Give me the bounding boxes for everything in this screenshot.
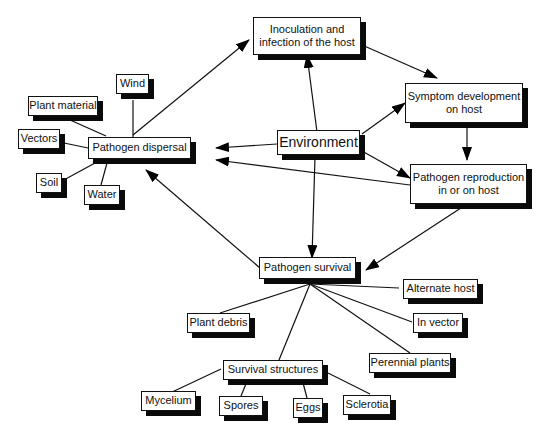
node-pathogen-dispersal: Pathogen dispersal: [88, 137, 191, 159]
edge-reproduction-survival: [366, 204, 467, 270]
node-eggs: Eggs: [293, 398, 323, 418]
edge-water-dispersal: [101, 163, 107, 185]
node-inoculation-line1: Inoculation and: [259, 23, 354, 36]
node-water-label: Water: [88, 188, 117, 201]
node-survival-structures-label: Survival structures: [228, 363, 318, 376]
edge-inoculation-symptom: [362, 45, 437, 78]
node-plant-material-label: Plant material: [29, 99, 96, 112]
edge-soil-dispersal: [62, 163, 95, 181]
node-wind: Wind: [116, 74, 149, 94]
node-vectors-label: Vectors: [21, 132, 58, 145]
edge-environment-dispersal: [216, 144, 277, 148]
node-mycelium: Mycelium: [141, 391, 196, 411]
edge-structures-eggs: [302, 379, 307, 398]
edge-environment-symptom: [362, 103, 405, 134]
edge-environment-inoculation: [307, 55, 317, 132]
node-survival-label: Pathogen survival: [264, 261, 351, 274]
node-spores: Spores: [219, 396, 263, 416]
node-alternate-host: Alternate host: [403, 279, 478, 299]
disease-cycle-diagram: Inoculation andinfection of the host Sym…: [0, 0, 551, 442]
node-environment-label: Environment: [279, 134, 358, 151]
edge-structures-sclerotia: [328, 373, 370, 394]
node-symptom-line1: Symptom development: [408, 90, 521, 103]
node-soil-label: Soil: [40, 176, 58, 189]
node-perennial-plants-label: Perennial plants: [371, 356, 450, 369]
node-plant-debris: Plant debris: [187, 313, 250, 333]
edge-plant-material-dispersal: [70, 120, 106, 136]
node-pathogen-reproduction: Pathogen reproductionin or on host: [410, 164, 527, 204]
edge-survival-plant-debris: [220, 284, 310, 313]
node-water: Water: [84, 185, 120, 205]
edge-survival-perennial-plants: [310, 284, 410, 353]
node-survival-structures: Survival structures: [223, 360, 323, 380]
node-perennial-plants: Perennial plants: [369, 353, 451, 373]
node-mycelium-label: Mycelium: [145, 394, 191, 407]
edge-survival-dispersal: [146, 170, 260, 268]
node-environment: Environment: [277, 130, 360, 155]
node-in-vector-label: In vector: [417, 316, 459, 329]
node-alternate-host-label: Alternate host: [407, 282, 475, 295]
node-dispersal-label: Pathogen dispersal: [92, 141, 186, 154]
node-inoculation: Inoculation andinfection of the host: [253, 17, 361, 55]
node-wind-label: Wind: [120, 77, 145, 90]
node-pathogen-survival: Pathogen survival: [259, 257, 356, 279]
node-soil: Soil: [36, 173, 62, 193]
node-symptom-line2: on host: [408, 103, 521, 116]
edge-survival-alternate-host: [310, 284, 399, 288]
edge-structures-spores: [241, 379, 248, 396]
node-sclerotia: Sclerotia: [343, 395, 391, 415]
node-symptom-development: Symptom developmenton host: [405, 83, 523, 123]
node-eggs-label: Eggs: [295, 401, 320, 414]
edge-dispersal-inoculation: [133, 40, 249, 135]
node-in-vector: In vector: [413, 313, 463, 333]
node-spores-label: Spores: [224, 399, 259, 412]
node-reproduction-line1: Pathogen reproduction: [413, 171, 524, 184]
node-inoculation-line2: infection of the host: [259, 36, 354, 49]
node-plant-material: Plant material: [28, 96, 98, 116]
node-vectors: Vectors: [18, 129, 60, 149]
node-plant-debris-label: Plant debris: [189, 316, 247, 329]
edge-reproduction-dispersal: [216, 160, 410, 185]
node-sclerotia-label: Sclerotia: [346, 398, 389, 411]
edge-survival-in-vector: [310, 284, 412, 322]
edge-structures-mycelium: [170, 369, 221, 393]
edge-environment-reproduction: [362, 151, 410, 178]
node-reproduction-line2: in or on host: [413, 184, 524, 197]
edge-vectors-dispersal: [64, 143, 88, 148]
edge-survival-structures: [279, 284, 310, 360]
